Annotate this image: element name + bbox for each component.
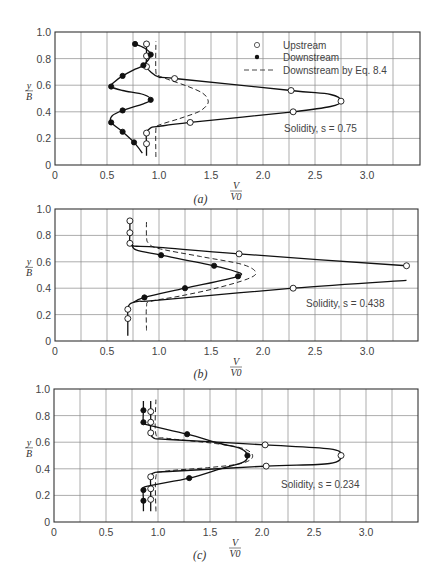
y-tick-label: 0.6: [36, 79, 51, 91]
open-circle-marker: [148, 419, 154, 425]
series-downstream-by-eq-8-4: [155, 400, 253, 512]
y-tick-label: 0.4: [36, 282, 51, 294]
x-axis-label: VV0: [230, 356, 242, 378]
x-axis-label: VV0: [229, 537, 241, 559]
chart-panel-a: 00.51.01.52.02.53.000.20.40.60.81.0VV0yB…: [25, 26, 420, 206]
x-tick-label: 2.5: [308, 345, 323, 357]
series-downstream: [141, 401, 250, 511]
open-circle-marker: [144, 130, 150, 136]
solidity-annotation: Solidity, s = 0.75: [284, 123, 357, 134]
x-tick-label: 2.0: [256, 345, 271, 357]
x-tick-label: 1.0: [152, 345, 167, 357]
legend-upstream-label: Upstream: [283, 40, 326, 51]
open-circle-marker: [148, 486, 154, 492]
series-curve: [143, 401, 248, 511]
x-label-numerator: V: [233, 180, 241, 191]
legend: UpstreamDownstreamDownstream by Eq. 8.4: [244, 40, 387, 76]
filled-circle-marker: [141, 487, 146, 492]
open-circle-marker: [290, 109, 296, 115]
filled-circle-marker: [212, 263, 217, 268]
open-circle-marker: [144, 41, 150, 47]
filled-circle-marker: [131, 140, 136, 145]
x-label-numerator: V: [233, 356, 241, 367]
y-axis-label: yB: [25, 437, 33, 459]
y-tick-label: 0.2: [35, 489, 50, 501]
y-tick-label: 0.6: [36, 256, 51, 268]
chart-panel-c: 00.51.01.52.02.53.000.20.40.60.81.0VV0yB…: [25, 383, 418, 562]
x-tick-label: 1.5: [203, 526, 218, 538]
open-circle-marker: [148, 496, 154, 502]
legend-downstream-marker: [255, 55, 259, 59]
open-circle-marker: [125, 306, 131, 312]
x-tick-label: 0.5: [100, 169, 115, 181]
x-tick-label: 3.0: [359, 526, 374, 538]
filled-circle-marker: [141, 63, 146, 68]
solidity-annotation: Solidity, s = 0.438: [306, 298, 385, 309]
filled-circle-marker: [120, 108, 125, 113]
x-tick-label: 2.0: [255, 526, 270, 538]
filled-circle-marker: [158, 253, 163, 258]
legend-upstream-marker: [254, 42, 259, 47]
x-tick-label: 0: [51, 526, 57, 538]
open-circle-marker: [125, 316, 131, 322]
series-curve: [155, 400, 253, 512]
x-tick-label: 1.5: [204, 345, 219, 357]
open-circle-marker: [127, 230, 133, 236]
y-tick-label: 0: [44, 516, 50, 528]
filled-circle-marker: [120, 73, 125, 78]
filled-circle-marker: [142, 295, 147, 300]
y-tick-label: 0.8: [36, 229, 51, 241]
y-label-numerator: y: [26, 80, 32, 91]
x-tick-label: 0: [52, 169, 58, 181]
y-tick-label: 0.4: [36, 106, 51, 118]
x-tick-label: 0: [52, 345, 58, 357]
open-circle-marker: [263, 463, 269, 469]
y-axis-label: yB: [25, 256, 33, 278]
chart-panel-b: 00.51.01.52.02.53.000.20.40.60.81.0VV0yB…: [25, 203, 418, 381]
open-circle-marker: [148, 409, 154, 415]
grid: [54, 389, 418, 522]
solidity-annotation: Solidity, s = 0.234: [281, 479, 360, 490]
filled-circle-marker: [148, 97, 153, 102]
grid: [55, 32, 420, 165]
x-tick-label: 3.0: [360, 345, 375, 357]
x-label-numerator: V: [232, 537, 240, 548]
y-tick-label: 0: [45, 335, 51, 347]
x-tick-label: 2.0: [256, 169, 271, 181]
x-tick-label: 1.0: [152, 169, 167, 181]
x-tick-label: 2.5: [308, 169, 323, 181]
open-circle-marker: [148, 474, 154, 480]
x-tick-label: 0.5: [99, 526, 114, 538]
y-tick-label: 0.8: [36, 53, 51, 65]
panel-caption: (c): [193, 548, 206, 562]
x-tick-label: 1.0: [151, 526, 166, 538]
open-circle-marker: [404, 263, 410, 269]
y-axis-label: yB: [25, 80, 33, 102]
y-tick-label: 1.0: [36, 26, 51, 38]
open-circle-marker: [144, 141, 150, 147]
filled-circle-marker: [185, 432, 190, 437]
x-label-denominator: V0: [230, 367, 241, 378]
series-curve: [110, 44, 150, 153]
filled-circle-marker: [235, 274, 240, 279]
y-label-denominator: B: [26, 448, 32, 459]
open-circle-marker: [187, 119, 193, 125]
filled-circle-marker: [141, 420, 146, 425]
filled-circle-marker: [141, 498, 146, 503]
y-label-numerator: y: [26, 437, 32, 448]
open-circle-marker: [236, 251, 242, 257]
filled-circle-marker: [141, 408, 146, 413]
x-tick-label: 2.5: [307, 526, 322, 538]
y-label-denominator: B: [26, 91, 32, 102]
legend-eq-label: Downstream by Eq. 8.4: [283, 65, 387, 76]
filled-circle-marker: [187, 476, 192, 481]
open-circle-marker: [148, 430, 154, 436]
plot-frame: [55, 32, 420, 165]
y-tick-label: 0: [45, 159, 51, 171]
y-tick-label: 0.2: [36, 132, 51, 144]
figure-velocity-profiles: 00.51.01.52.02.53.000.20.40.60.81.0VV0yB…: [0, 0, 440, 578]
open-circle-marker: [172, 76, 178, 82]
filled-circle-marker: [148, 52, 153, 57]
filled-circle-marker: [182, 286, 187, 291]
open-circle-marker: [290, 285, 296, 291]
